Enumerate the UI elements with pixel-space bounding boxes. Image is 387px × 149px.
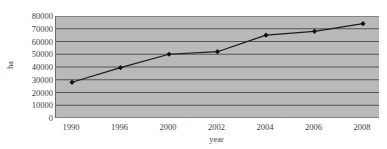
x-tick-label: 2004 (242, 121, 288, 133)
y-axis-tick-labels: 8000070000600005000040000300002000010000… (14, 10, 53, 124)
plot-area (55, 16, 379, 118)
y-tick-label: 70000 (14, 24, 53, 34)
y-tick-label: 40000 (14, 62, 53, 72)
diamond-marker-icon (263, 33, 268, 38)
plot-svg (56, 16, 379, 118)
diamond-marker-icon (166, 52, 171, 57)
y-tick-label: 20000 (14, 88, 53, 98)
diamond-marker-icon (69, 80, 74, 85)
gridlines-group (56, 16, 379, 118)
y-tick-label: 80000 (14, 11, 53, 21)
x-tick-label: 2008 (339, 121, 385, 133)
diamond-marker-icon (118, 65, 123, 70)
x-tick-label: 1996 (97, 121, 143, 133)
chart-title (0, 0, 387, 5)
y-tick-label: 60000 (14, 37, 53, 47)
line-chart-figure: ha 8000070000600005000040000300002000010… (0, 0, 387, 149)
data-series-group (69, 21, 365, 85)
y-tick-label: 10000 (14, 100, 53, 110)
x-tick-label: 1990 (48, 121, 94, 133)
x-tick-label: 2006 (291, 121, 337, 133)
diamond-marker-icon (312, 29, 317, 34)
diamond-marker-icon (360, 21, 365, 26)
x-axis-title: year (55, 133, 378, 145)
x-tick-label: 2000 (145, 121, 191, 133)
y-tick-label: 30000 (14, 75, 53, 85)
diamond-marker-icon (215, 49, 220, 54)
y-tick-label: 50000 (14, 49, 53, 59)
x-tick-label: 2002 (194, 121, 240, 133)
